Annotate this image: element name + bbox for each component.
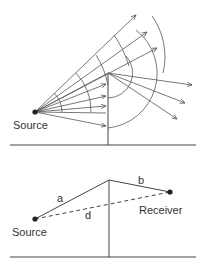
rays-over-barrier	[35, 15, 157, 112]
top-diagram: Source	[10, 15, 196, 145]
segment-b-label: b	[138, 174, 144, 186]
receiver-label: Receiver	[139, 204, 183, 216]
diffraction-figure: Source a b d Source Receiver	[0, 0, 202, 267]
segment-d-label: d	[85, 209, 91, 221]
diffracted-rays	[108, 73, 192, 119]
wavefronts-diffracted	[108, 16, 165, 128]
source-label-bottom: Source	[12, 226, 47, 238]
path-a	[35, 180, 109, 219]
segment-a-label: a	[57, 192, 64, 204]
bottom-diagram: a b d Source Receiver	[10, 174, 196, 257]
source-point-bottom	[32, 216, 37, 221]
source-point-top	[32, 109, 37, 114]
source-label-top: Source	[13, 119, 48, 131]
receiver-point	[167, 189, 172, 194]
